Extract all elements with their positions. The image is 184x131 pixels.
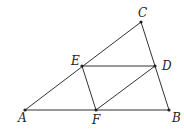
point-d xyxy=(153,64,156,67)
label-e: E xyxy=(70,54,80,68)
segment-ef xyxy=(82,66,96,110)
label-b: B xyxy=(171,111,181,125)
label-d: D xyxy=(161,59,172,73)
label-c: C xyxy=(138,6,147,20)
segments xyxy=(25,22,169,110)
point-e xyxy=(80,64,83,67)
point-f xyxy=(94,108,97,111)
point-b xyxy=(167,108,170,111)
geometry-diagram: ABCDEF xyxy=(0,0,184,131)
segment-fd xyxy=(96,66,155,110)
label-f: F xyxy=(91,113,101,127)
label-a: A xyxy=(17,111,27,125)
point-c xyxy=(139,20,142,23)
